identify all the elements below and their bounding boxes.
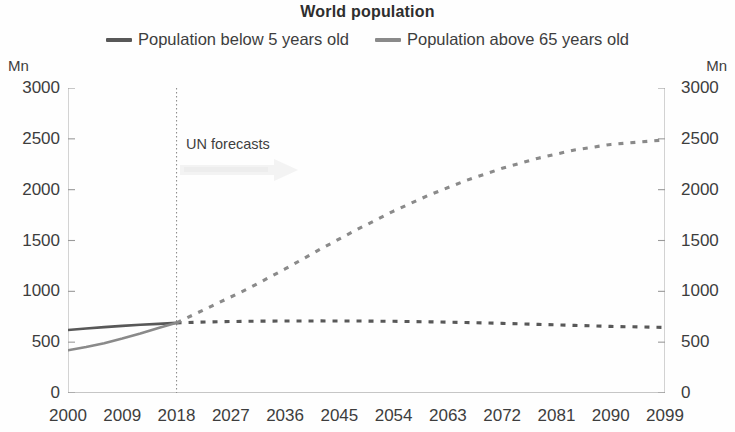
plot-svg [68,88,665,393]
x-axis-tick-label: 2063 [418,406,478,426]
y-axis-left-tick-label: 1500 [2,232,60,250]
x-axis-tick-label: 2072 [472,406,532,426]
x-axis-tick-label: 2000 [38,406,98,426]
x-axis-tick-label: 2099 [635,406,695,426]
y-axis-left-unit: Mn [8,57,29,74]
x-axis-tick-label: 2027 [201,406,261,426]
y-axis-right-tick-label: 1000 [681,282,735,300]
x-axis-tick-label: 2054 [364,406,424,426]
y-axis-left-tick-label: 2000 [2,181,60,199]
chart-legend: Population below 5 years old Population … [0,30,735,49]
x-axis-tick-label: 2018 [147,406,207,426]
y-axis-right-unit: Mn [706,57,727,74]
y-axis-right-tick-label: 3000 [681,79,735,97]
legend-item-below-5[interactable]: Population below 5 years old [106,30,349,49]
series-line-forecast-below-5 [177,321,665,328]
x-axis-tick-label: 2036 [255,406,315,426]
legend-swatch-above-65 [375,38,401,42]
y-axis-right-tick-label: 1500 [681,232,735,250]
x-axis-tick-label: 2081 [526,406,586,426]
legend-label-above-65: Population above 65 years old [407,30,629,49]
x-axis-tick-label: 2009 [92,406,152,426]
chart-title: World population [0,3,735,21]
legend-label-below-5: Population below 5 years old [138,30,349,49]
legend-item-above-65[interactable]: Population above 65 years old [375,30,629,49]
legend-swatch-below-5 [106,38,132,42]
y-axis-right-tick-label: 2000 [681,181,735,199]
watermark-arrow-icon [178,157,300,183]
y-axis-left-tick-label: 3000 [2,79,60,97]
y-axis-left-tick-label: 1000 [2,282,60,300]
plot-area [68,88,665,393]
x-axis-tick-label: 2045 [309,406,369,426]
y-axis-right-tick-label: 2500 [681,130,735,148]
y-axis-left-tick-label: 500 [2,333,60,351]
world-population-chart: World population Population below 5 year… [0,0,735,432]
y-axis-right-tick-label: 0 [681,384,735,402]
annotation-un-forecasts: UN forecasts [186,136,270,152]
x-axis-tick-label: 2090 [581,406,641,426]
y-axis-right-tick-label: 500 [681,333,735,351]
y-axis-left-tick-label: 0 [2,384,60,402]
y-axis-left-tick-label: 2500 [2,130,60,148]
